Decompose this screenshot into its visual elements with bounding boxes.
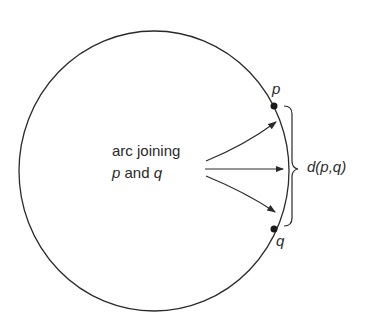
point-p-label: p bbox=[272, 80, 280, 97]
caption-q: q bbox=[154, 164, 162, 181]
arc-arrow-lower bbox=[206, 176, 275, 212]
point-p bbox=[271, 103, 278, 110]
arc-arrow-upper bbox=[206, 122, 276, 161]
distance-label: d(p,q) bbox=[307, 158, 346, 175]
point-q-label: q bbox=[276, 232, 284, 249]
caption-line1: arc joining bbox=[112, 142, 180, 159]
caption-and: and bbox=[120, 164, 153, 181]
caption-line2: p and q bbox=[112, 164, 162, 181]
brace bbox=[284, 106, 298, 226]
